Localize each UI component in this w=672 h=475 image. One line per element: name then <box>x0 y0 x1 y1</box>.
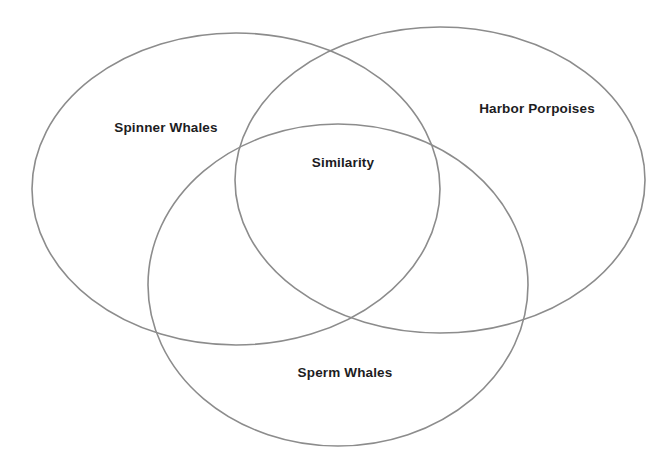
venn-circle-sperm-whales[interactable] <box>148 124 528 446</box>
venn-label-harbor-porpoises: Harbor Porpoises <box>479 102 595 117</box>
venn-circles-canvas <box>0 0 672 475</box>
venn-label-sperm-whales: Sperm Whales <box>298 366 393 381</box>
venn-diagram: Spinner Whales Harbor Porpoises Similari… <box>0 0 672 475</box>
venn-label-spinner-whales: Spinner Whales <box>114 121 217 136</box>
venn-label-similarity: Similarity <box>312 156 374 171</box>
